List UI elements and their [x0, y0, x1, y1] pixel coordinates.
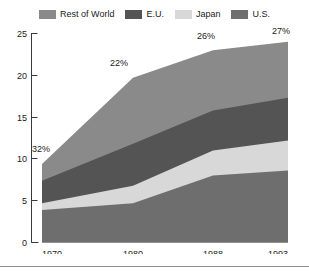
x-tick-label-1970: 1970: [42, 249, 62, 254]
legend-swatch-rest-of-world: [39, 10, 56, 19]
y-tick-label-0: 0: [22, 238, 27, 248]
legend-item-eu[interactable]: E.U.: [125, 9, 164, 19]
chart-page: Rest of World E.U. Japan U.S.: [0, 0, 309, 272]
stacked-area-chart: 25 20 15 10 5 0 1970 1980 1988 1993 32% …: [0, 22, 309, 254]
legend-label-japan: Japan: [196, 9, 221, 19]
data-label-1970: 32%: [32, 144, 50, 154]
data-label-1988: 26%: [197, 31, 215, 41]
legend-label-us: U.S.: [252, 9, 270, 19]
area-bands: [42, 42, 288, 243]
legend-swatch-us: [231, 10, 248, 19]
x-tick-label-1993: 1993: [268, 249, 288, 254]
y-tick-label-15: 15: [17, 113, 27, 123]
y-tick-label-20: 20: [17, 71, 27, 81]
x-tick-label-1980: 1980: [123, 249, 143, 254]
legend-label-eu: E.U.: [146, 9, 164, 19]
data-label-1980: 22%: [110, 58, 128, 68]
legend-item-japan[interactable]: Japan: [175, 9, 221, 19]
legend-swatch-japan: [175, 10, 192, 19]
y-tick-label-10: 10: [17, 154, 27, 164]
y-tick-label-5: 5: [22, 196, 27, 206]
x-tick-label-1988: 1988: [203, 249, 223, 254]
legend-label-rest-of-world: Rest of World: [60, 9, 114, 19]
chart-legend: Rest of World E.U. Japan U.S.: [0, 6, 309, 22]
data-label-1993: 27%: [272, 26, 290, 36]
legend-item-rest-of-world[interactable]: Rest of World: [39, 9, 114, 19]
chart-plot-area: 25 20 15 10 5 0 1970 1980 1988 1993 32% …: [0, 22, 309, 254]
y-axis: 25 20 15 10 5 0: [17, 29, 38, 248]
footer-divider: [0, 266, 309, 267]
legend-item-us[interactable]: U.S.: [231, 9, 270, 19]
x-axis: 1970 1980 1988 1993: [32, 243, 289, 255]
legend-swatch-eu: [125, 10, 142, 19]
y-tick-label-25: 25: [17, 29, 27, 39]
